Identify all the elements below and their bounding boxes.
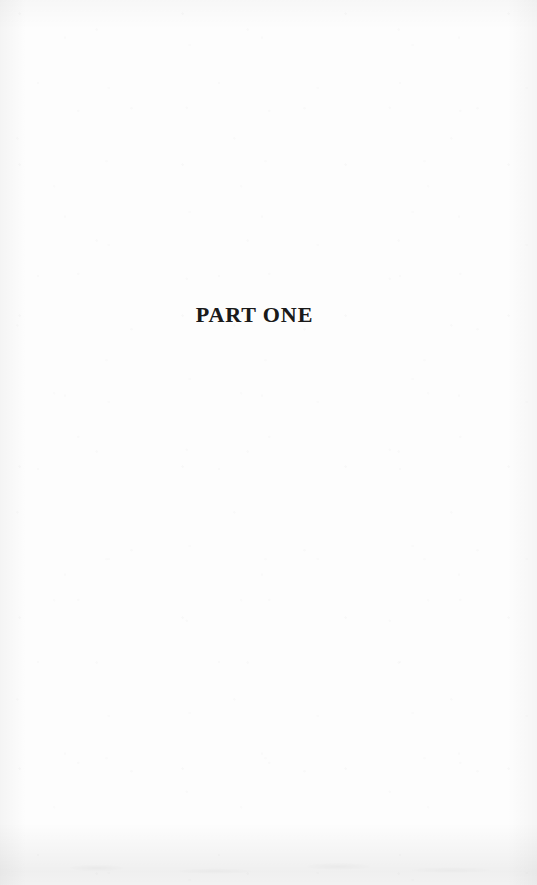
page-bottom-scan-smudge xyxy=(0,823,537,885)
scanned-book-page: PART ONE xyxy=(0,0,537,885)
paper-texture xyxy=(0,0,537,885)
page-right-edge-shading xyxy=(507,0,537,885)
page-top-edge-shading xyxy=(0,0,537,30)
part-title: PART ONE xyxy=(196,302,313,328)
part-title-block: PART ONE xyxy=(0,302,537,328)
page-left-edge-shading xyxy=(0,0,26,885)
